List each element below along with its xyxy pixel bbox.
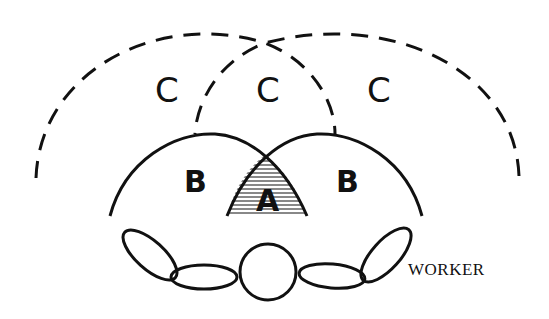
worker-figure: [115, 220, 419, 300]
left-max-reach-arc: [36, 34, 335, 178]
right-forearm-icon: [298, 261, 366, 291]
right-hand-icon: [353, 220, 419, 289]
zone-c-left-label: C: [155, 70, 179, 110]
right-max-reach-arc: [195, 34, 519, 176]
zone-c-right-label: C: [367, 70, 391, 110]
zone-c-center-label: C: [256, 70, 280, 110]
zone-b-left-label: B: [184, 164, 207, 199]
worker-head-icon: [240, 244, 296, 300]
zone-a-label: A: [256, 183, 280, 218]
zone-b-right-label: B: [336, 164, 359, 199]
work-area-diagram: C C C B B A WORKER: [0, 0, 549, 319]
left-forearm-icon: [171, 265, 237, 289]
left-hand-icon: [115, 222, 184, 288]
worker-label: WORKER: [408, 260, 485, 279]
